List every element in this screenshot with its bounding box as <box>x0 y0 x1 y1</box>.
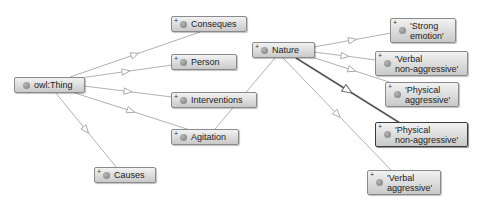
edge-nature-to-strong_emotion <box>314 33 391 47</box>
arrowhead-icon <box>124 88 133 95</box>
ontology-graph-canvas[interactable]: owl:Thing+Conseques+Person+Interventions… <box>0 0 483 203</box>
node-interventions[interactable]: +Interventions <box>171 92 257 108</box>
class-circle-icon <box>23 82 30 89</box>
arrowhead-icon <box>342 84 355 96</box>
node-causes[interactable]: +Causes <box>94 167 156 183</box>
expand-plus-icon[interactable]: + <box>388 83 392 90</box>
node-label: Causes <box>114 170 145 180</box>
node-label: owl:Thing <box>34 80 73 90</box>
node-strong-emotion[interactable]: +'Strong emotion' <box>390 18 456 43</box>
expand-plus-icon[interactable]: + <box>378 52 382 59</box>
class-circle-icon <box>180 21 187 28</box>
node-verbal-aggressive[interactable]: +'Verbal aggressive' <box>367 170 441 195</box>
edge-owl_thing-to-person <box>80 65 172 78</box>
class-circle-icon <box>180 134 187 141</box>
node-label: 'Strong emotion' <box>410 21 444 41</box>
node-label: Person <box>191 57 220 67</box>
class-circle-icon <box>180 59 187 66</box>
arrowhead-icon <box>130 50 140 59</box>
node-label: 'Physical aggressive' <box>405 85 450 105</box>
node-verbal-non-aggressive[interactable]: +'Verbal non-aggressive' <box>375 51 468 76</box>
arrowhead-icon <box>348 36 357 44</box>
expand-plus-icon[interactable]: + <box>174 17 178 24</box>
node-agitation[interactable]: +Agitation <box>171 129 239 145</box>
class-circle-icon <box>180 97 187 104</box>
class-circle-icon <box>376 179 383 186</box>
class-circle-icon <box>394 91 401 98</box>
node-label: 'Verbal aggressive' <box>387 173 432 193</box>
node-label: 'Physical non-aggressive' <box>395 125 458 145</box>
class-circle-icon <box>384 131 391 138</box>
expand-plus-icon[interactable]: + <box>370 171 374 178</box>
node-conseques[interactable]: +Conseques <box>171 16 247 32</box>
class-circle-icon <box>261 47 268 54</box>
expand-plus-icon[interactable]: + <box>255 43 259 50</box>
arrowhead-icon <box>122 68 131 75</box>
node-physical-aggressive[interactable]: +'Physical aggressive' <box>385 82 459 107</box>
expand-plus-icon[interactable]: + <box>174 55 178 62</box>
arrowhead-icon <box>126 107 136 116</box>
node-label: Interventions <box>191 95 243 105</box>
node-label: 'Verbal non-aggressive' <box>395 54 458 74</box>
node-person[interactable]: +Person <box>171 54 237 70</box>
class-circle-icon <box>399 27 406 34</box>
arrowhead-icon <box>347 66 357 75</box>
edge-nature-to-verbal_non_aggressive <box>314 52 376 60</box>
class-circle-icon <box>384 60 391 67</box>
node-owl-thing[interactable]: owl:Thing <box>14 77 85 93</box>
expand-plus-icon[interactable]: + <box>174 130 178 137</box>
expand-plus-icon[interactable]: + <box>393 19 397 26</box>
node-label: Conseques <box>191 19 237 29</box>
arrowhead-icon <box>341 52 350 59</box>
node-label: Agitation <box>191 132 226 142</box>
expand-plus-icon[interactable]: + <box>174 93 178 100</box>
class-circle-icon <box>103 172 110 179</box>
expand-plus-icon[interactable]: + <box>97 168 101 175</box>
node-nature[interactable]: +Nature <box>252 42 315 58</box>
node-physical-non-aggressive[interactable]: +'Physical non-aggressive' <box>375 122 468 147</box>
edge-owl_thing-to-interventions <box>84 86 172 97</box>
expand-plus-icon[interactable]: + <box>378 123 382 130</box>
node-label: Nature <box>272 45 299 55</box>
